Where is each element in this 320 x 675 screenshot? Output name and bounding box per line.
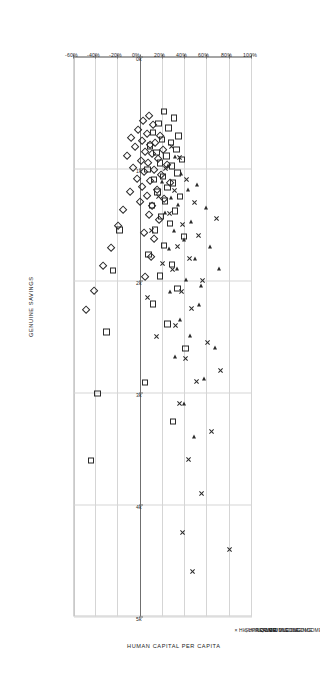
y-tick-label: -60% <box>65 51 78 57</box>
y-tick-label: 20% <box>154 51 165 57</box>
y-tick-label: 80% <box>221 51 232 57</box>
x-tick-label: 5k <box>136 615 142 621</box>
gridline-vertical <box>74 504 252 505</box>
plot-area <box>74 56 252 616</box>
gridline-vertical <box>74 616 252 617</box>
legend-item[interactable]: ×HIGH INCOME <box>233 626 268 632</box>
gridline-horizontal <box>229 56 230 616</box>
x-tick-label: 3k <box>136 391 142 397</box>
chart-canvas: ◇LOW INCOME□LOWER MIDDLE INCOME◁UPPER MI… <box>0 0 268 675</box>
y-tick-label: 40% <box>176 51 187 57</box>
x-axis-title: HUMAN CAPITAL PER CAPITA <box>127 642 221 648</box>
y-axis-title: GENUINE SAVINGS <box>28 276 34 337</box>
legend-label: HIGH INCOME <box>239 626 268 632</box>
gridline-horizontal <box>95 56 96 616</box>
x-tick-label: 1k <box>136 167 142 173</box>
y-tick-label: -20% <box>110 51 123 57</box>
gridline-vertical <box>74 392 252 393</box>
x-tick-label: 4k <box>136 503 142 509</box>
y-tick-label: 0% <box>132 51 140 57</box>
x-tick-label: 2k <box>136 279 142 285</box>
y-tick-label: 100% <box>243 51 257 57</box>
gridline-horizontal <box>251 56 252 616</box>
gridline-horizontal <box>73 56 74 616</box>
scatter-figure: ◇LOW INCOME□LOWER MIDDLE INCOME◁UPPER MI… <box>0 0 268 675</box>
y-tick-label: 60% <box>199 51 210 57</box>
gridline-horizontal <box>118 56 119 616</box>
gridline-horizontal <box>207 56 208 616</box>
gridline-vertical <box>74 280 252 281</box>
y-tick-label: -40% <box>87 51 100 57</box>
